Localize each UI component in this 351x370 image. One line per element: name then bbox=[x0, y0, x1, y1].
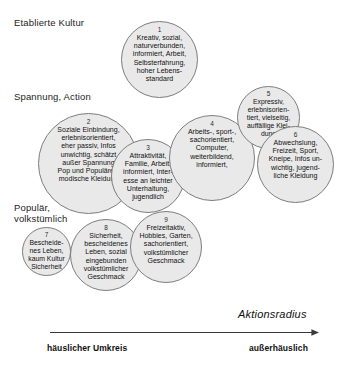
bubble-4-text: Arbeits-, sport-, sachorientiert, Comput… bbox=[185, 128, 239, 169]
diagram-canvas: Etablierte Kultur Spannung, Action Popul… bbox=[0, 0, 351, 370]
bubble-9-number: 9 bbox=[164, 216, 168, 223]
x-axis-right-label: außerhäuslich bbox=[249, 343, 308, 353]
bubble-3-text: Attraktivität, Familie, Arbeit, informie… bbox=[120, 152, 176, 201]
x-axis-title: Aktionsradius bbox=[238, 308, 307, 320]
bubble-7[interactable]: 7 Bescheide- nes Leben, kaum Kultur Sich… bbox=[22, 227, 71, 276]
bubble-8-text: Sicherheit, bescheidenes Leben, sozial e… bbox=[81, 232, 132, 281]
bubble-1[interactable]: 1 Kreativ, sozial, naturverbunden, infor… bbox=[121, 21, 198, 98]
bubble-7-text: Bescheide- nes Leben, kaum Kultur Sicher… bbox=[25, 239, 67, 271]
bubble-9[interactable]: 9 Freizeitaktiv, Hobbies, Garten, sachor… bbox=[130, 211, 202, 283]
bubble-6-number: 6 bbox=[294, 131, 298, 138]
bubble-9-text: Freizeitaktiv, Hobbies, Garten, sachorie… bbox=[136, 224, 195, 265]
y-label-spannung-action: Spannung, Action bbox=[14, 91, 91, 102]
bubble-4-number: 4 bbox=[210, 120, 214, 127]
y-label-etablierte-kultur: Etablierte Kultur bbox=[14, 17, 84, 28]
bubble-2-number: 2 bbox=[87, 118, 91, 125]
bubble-1-text: Kreativ, sozial, naturverbunden, informi… bbox=[130, 34, 189, 83]
x-axis-left-label: häuslicher Umkreis bbox=[47, 343, 127, 353]
bubble-6[interactable]: 6 Abwechslung, Freizeit, Sport, Kneipe, … bbox=[257, 126, 334, 203]
bubble-5-number: 5 bbox=[267, 90, 271, 97]
bubble-8-number: 8 bbox=[104, 224, 108, 231]
bubble-3-number: 3 bbox=[146, 144, 150, 151]
bubble-1-number: 1 bbox=[158, 26, 162, 33]
bubble-6-text: Abwechslung, Freizeit, Sport, Kneipe, In… bbox=[266, 139, 325, 180]
bubble-7-number: 7 bbox=[45, 231, 49, 238]
